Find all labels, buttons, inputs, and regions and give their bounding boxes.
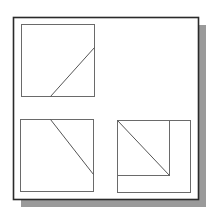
drawing-stage bbox=[0, 0, 214, 218]
drawing-frame bbox=[14, 18, 199, 200]
projection-diagram bbox=[0, 0, 214, 218]
